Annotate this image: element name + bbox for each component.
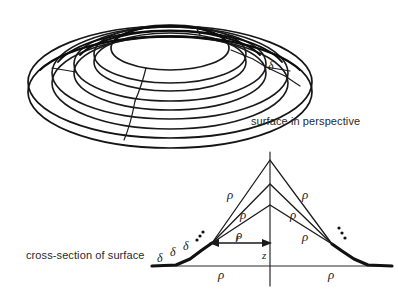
ellipsis-dots-left [195,230,204,241]
dome-ring-2-top [52,27,288,119]
label-rho-baseline-left: ρ [218,268,224,281]
technical-figure: surface in perspective cross-section of … [0,0,398,297]
dome-ring-3-bottom [74,36,266,110]
label-rho-right-outer: ρ [302,188,308,201]
label-rho-right-inner: ρ [302,230,308,243]
label-delta-step-1: δ [157,252,163,264]
stepped-skirt-right [332,244,392,266]
label-rho-right-middle: ρ [290,208,296,221]
label-delta-step-2: δ [170,246,176,258]
caption-cross-section-of-surface: cross-section of surface [26,249,145,261]
label-rho-left-middle: ρ [240,208,246,221]
label-r-radius: r [236,232,240,243]
dome-meridian-front-upper [135,68,146,101]
bottom-diagram-group [152,152,392,286]
label-delta-perspective: δ [268,60,274,72]
label-delta-step-3: δ [183,240,189,252]
caption-surface-in-perspective: surface in perspective [251,115,360,127]
ellipsis-dots-right [337,226,346,239]
top-diagram-group [28,25,312,148]
label-z-axis: z [262,250,266,261]
label-rho-left-outer: ρ [227,188,233,201]
label-rho-baseline-right: ρ [328,268,334,281]
